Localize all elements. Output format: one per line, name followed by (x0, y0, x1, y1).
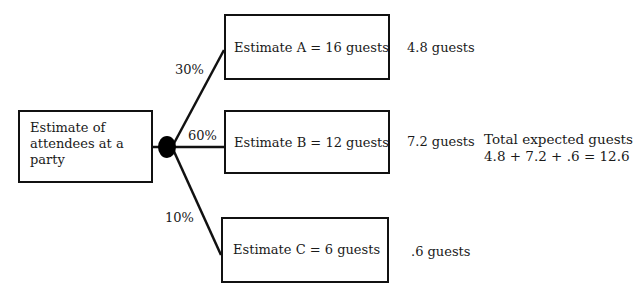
expected-b: 7.2 guests (407, 133, 475, 150)
estimate-a-label: Estimate A = 16 guests (234, 39, 389, 56)
estimate-b-label: Estimate B = 12 guests (234, 134, 389, 151)
total-formula: 4.8 + 7.2 + .6 = 12.6 (484, 148, 630, 165)
estimate-a-box: Estimate A = 16 guests (224, 14, 390, 80)
root-label-line1: Estimate of (30, 120, 124, 136)
root-box: Estimate of attendees at a party (18, 110, 153, 183)
expected-c: .6 guests (411, 243, 471, 260)
total-title: Total expected guests (484, 131, 633, 148)
probability-c: 10% (165, 209, 194, 226)
chance-node (158, 136, 176, 158)
root-label-line3: party (30, 152, 124, 168)
probability-a: 30% (175, 61, 204, 78)
estimate-b-box: Estimate B = 12 guests (224, 110, 390, 174)
root-label-line2: attendees at a (30, 136, 124, 152)
estimate-c-box: Estimate C = 6 guests (221, 217, 389, 283)
expected-a: 4.8 guests (407, 39, 475, 56)
estimate-c-label: Estimate C = 6 guests (233, 241, 380, 258)
probability-b: 60% (188, 127, 217, 144)
